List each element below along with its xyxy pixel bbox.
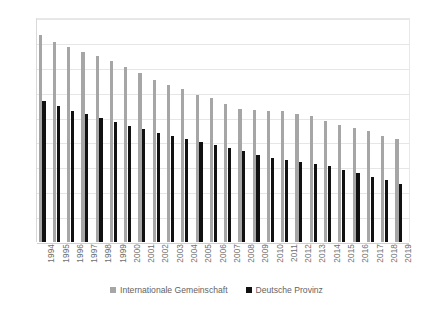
bar-internationale-gemeinschaft-2018	[381, 136, 384, 242]
bar-internationale-gemeinschaft-2015	[338, 125, 341, 242]
x-axis-tick-label: 1998	[104, 244, 113, 278]
bar-deutsche-provinz-2019	[399, 184, 402, 242]
bar-group	[208, 18, 222, 242]
bar-deutsche-provinz-1996	[71, 111, 74, 242]
bar-deutsche-provinz-2007	[228, 148, 231, 242]
bar-deutsche-provinz-2004	[185, 139, 188, 242]
bar-group	[280, 18, 294, 242]
bar-group	[194, 18, 208, 242]
bar-internationale-gemeinschaft-2006	[210, 98, 213, 242]
x-axis-tick-label: 1999	[119, 244, 128, 278]
bar-group	[94, 18, 108, 242]
bar-internationale-gemeinschaft-2000	[124, 67, 127, 242]
x-axis-tick-label: 2009	[261, 244, 270, 278]
bar-internationale-gemeinschaft-2004	[181, 89, 184, 242]
bar-deutsche-provinz-2015	[342, 170, 345, 242]
x-axis-tick-label: 2011	[290, 244, 299, 278]
x-axis-tick-label: 2005	[204, 244, 213, 278]
x-axis-tick-label: 2003	[176, 244, 185, 278]
bar-deutsche-provinz-1998	[99, 118, 102, 242]
x-axis-tick-label: 2007	[233, 244, 242, 278]
bar-internationale-gemeinschaft-2005	[196, 95, 199, 242]
bar-group	[251, 18, 265, 242]
bar-internationale-gemeinschaft-2003	[167, 85, 170, 242]
bar-internationale-gemeinschaft-2011	[281, 111, 284, 242]
bar-deutsche-provinz-2005	[199, 142, 202, 242]
bar-internationale-gemeinschaft-2016	[353, 128, 356, 242]
bar-internationale-gemeinschaft-2008	[238, 109, 241, 242]
bar-group	[337, 18, 351, 242]
x-axis-tick-label: 2019	[404, 244, 413, 278]
x-axis-tick-label: 2010	[276, 244, 285, 278]
bar-deutsche-provinz-2001	[142, 129, 145, 242]
bar-group	[165, 18, 179, 242]
bar-deutsche-provinz-2010	[271, 158, 274, 242]
bar-group	[322, 18, 336, 242]
legend-label: Deutsche Provinz	[256, 285, 323, 295]
bar-internationale-gemeinschaft-1997	[81, 52, 84, 242]
x-axis-tick-label: 2017	[376, 244, 385, 278]
bar-internationale-gemeinschaft-2013	[310, 116, 313, 242]
bar-group	[108, 18, 122, 242]
x-axis-tick-label: 2016	[361, 244, 370, 278]
bar-internationale-gemeinschaft-2017	[367, 131, 370, 242]
bar-internationale-gemeinschaft-2007	[224, 104, 227, 242]
bar-group	[351, 18, 365, 242]
bar-deutsche-provinz-2017	[371, 177, 374, 242]
bar-deutsche-provinz-1997	[85, 114, 88, 242]
bar-deutsche-provinz-1994	[42, 101, 45, 242]
bar-deutsche-provinz-2018	[385, 180, 388, 242]
legend-item-internationale-gemeinschaft[interactable]: Internationale Gemeinschaft	[110, 285, 228, 295]
legend-swatch-icon	[246, 287, 252, 293]
bar-group	[123, 18, 137, 242]
x-axis-tick-label: 2014	[333, 244, 342, 278]
legend-item-deutsche-provinz[interactable]: Deutsche Provinz	[246, 285, 323, 295]
bar-group	[394, 18, 408, 242]
bar-deutsche-provinz-1999	[114, 122, 117, 242]
bar-internationale-gemeinschaft-2010	[267, 111, 270, 242]
bar-internationale-gemeinschaft-1999	[110, 61, 113, 242]
legend-swatch-icon	[110, 287, 116, 293]
bar-group	[237, 18, 251, 242]
bar-deutsche-provinz-2003	[171, 136, 174, 242]
x-axis-tick-label: 2015	[347, 244, 356, 278]
bar-internationale-gemeinschaft-2012	[295, 114, 298, 242]
bar-group	[223, 18, 237, 242]
bar-deutsche-provinz-2006	[214, 145, 217, 242]
x-axis-tick-label: 2002	[161, 244, 170, 278]
bar-group	[379, 18, 393, 242]
bar-deutsche-provinz-2016	[356, 173, 359, 242]
bar-group	[37, 18, 51, 242]
bar-deutsche-provinz-2014	[328, 166, 331, 242]
bar-group	[294, 18, 308, 242]
x-axis-tick-label: 1996	[76, 244, 85, 278]
bar-chart: 020040060080010001200140016001800 199419…	[0, 0, 433, 315]
bar-internationale-gemeinschaft-1994	[39, 35, 42, 242]
x-axis-tick-label: 2000	[133, 244, 142, 278]
x-axis-tick-label: 2008	[247, 244, 256, 278]
bar-internationale-gemeinschaft-2019	[395, 139, 398, 242]
bar-group	[66, 18, 80, 242]
x-axis-tick-label: 2001	[147, 244, 156, 278]
chart-legend: Internationale GemeinschaftDeutsche Prov…	[0, 285, 433, 295]
bar-deutsche-provinz-2011	[285, 160, 288, 242]
bar-group	[265, 18, 279, 242]
bar-internationale-gemeinschaft-2009	[253, 110, 256, 242]
legend-label: Internationale Gemeinschaft	[120, 285, 228, 295]
x-axis-tick-label: 2004	[190, 244, 199, 278]
bar-internationale-gemeinschaft-2002	[153, 80, 156, 242]
bar-deutsche-provinz-2000	[128, 126, 131, 242]
bar-internationale-gemeinschaft-1998	[96, 56, 99, 242]
x-axis-tick-label: 2013	[318, 244, 327, 278]
bar-internationale-gemeinschaft-2001	[138, 73, 141, 242]
bar-internationale-gemeinschaft-2014	[324, 121, 327, 242]
bar-group	[151, 18, 165, 242]
bar-deutsche-provinz-2012	[299, 162, 302, 242]
bar-group	[365, 18, 379, 242]
bar-group	[137, 18, 151, 242]
x-axis-tick-label: 1997	[90, 244, 99, 278]
bar-deutsche-provinz-2008	[242, 151, 245, 242]
x-axis-tick-label: 2018	[390, 244, 399, 278]
bar-group	[51, 18, 65, 242]
bar-internationale-gemeinschaft-1996	[67, 47, 70, 242]
